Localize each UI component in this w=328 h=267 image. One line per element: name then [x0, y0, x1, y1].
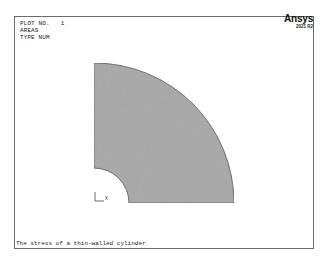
- plot-title-caption: The stress of a thin-walled cylinder: [16, 241, 146, 247]
- triad-x-label: X: [105, 197, 108, 202]
- quarter-annulus-area[interactable]: [94, 63, 234, 203]
- coordinate-triad-icon: [95, 192, 104, 201]
- area-plot: [0, 0, 328, 267]
